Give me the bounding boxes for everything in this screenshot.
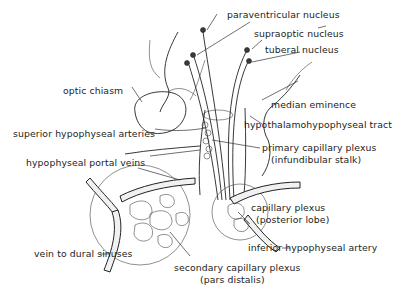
label-infundibular-stalk: (infundibular stalk) bbox=[271, 154, 361, 165]
label-pars-distalis: (pars distalis) bbox=[200, 274, 265, 285]
label-superior-hypophyseal-arteries: superior hypophyseal arteries bbox=[13, 128, 155, 139]
label-inferior-hypophyseal-artery: inferior hypophyseal artery bbox=[248, 242, 377, 253]
label-vein-to-dural-sinuses: vein to dural sinuses bbox=[34, 248, 133, 259]
label-capillary-plexus: capillary plexus bbox=[251, 202, 325, 213]
label-primary-capillary-plexus: primary capillary plexus bbox=[262, 142, 376, 153]
label-hypophyseal-portal-veins: hypophyseal portal veins bbox=[26, 157, 145, 168]
hypophyseal-diagram: paraventricular nucleus supraoptic nucle… bbox=[0, 0, 393, 293]
label-posterior-lobe: (posterior lobe) bbox=[256, 214, 329, 225]
label-optic-chiasm: optic chiasm bbox=[63, 85, 123, 96]
label-hypothalamohypophyseal-tract: hypothalamohypophyseal tract bbox=[244, 119, 392, 130]
label-supraoptic-nucleus: supraoptic nucleus bbox=[254, 28, 344, 39]
label-tuberal-nucleus: tuberal nucleus bbox=[265, 44, 339, 55]
label-paraventricular-nucleus: paraventricular nucleus bbox=[227, 9, 340, 20]
label-median-eminence: median eminence bbox=[271, 99, 356, 110]
label-secondary-capillary-plexus: secondary capillary plexus bbox=[174, 262, 300, 273]
